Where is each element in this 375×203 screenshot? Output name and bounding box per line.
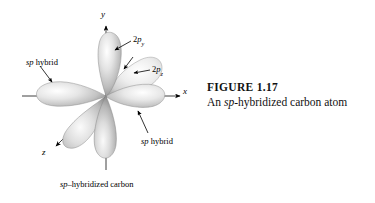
label-sp-hybrid-left: sp hybrid — [26, 58, 58, 67]
label-2pz: 2pz — [152, 65, 163, 76]
figure-caption-block: FIGURE 1.17 An sp-hybridized carbon atom — [207, 81, 373, 109]
label-2py: 2py — [133, 35, 144, 46]
figure-container: 2py 2pz sp hybrid sp hybrid sp–hybridize… — [0, 0, 375, 203]
leader-line-sp-right — [138, 111, 148, 133]
figure-caption-text: An sp-hybridized carbon atom — [207, 95, 373, 109]
label-sp-hybrid-right: sp hybrid — [141, 137, 173, 146]
orbital-diagram — [0, 0, 235, 203]
figure-number: FIGURE 1.17 — [207, 81, 373, 94]
orbital-lobe-sp-left — [36, 82, 106, 107]
leader-line-sp-left — [40, 66, 52, 82]
axis-label-z: z — [42, 148, 46, 157]
label-sp-hybridized-carbon: sp–hybridized carbon — [60, 180, 133, 189]
axis-label-y: y — [101, 10, 105, 19]
axis-label-x: x — [183, 87, 187, 96]
